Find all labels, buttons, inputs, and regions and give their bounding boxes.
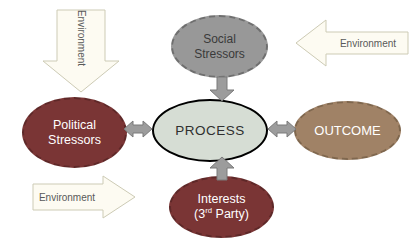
environment-label-top-left: Environment <box>76 10 87 66</box>
interests-label-line1: Interests <box>198 192 246 207</box>
environment-label-top-right: Environment <box>340 38 396 49</box>
node-political-stressors: Political Stressors <box>22 97 127 168</box>
political-stressors-label-line2: Stressors <box>48 133 101 148</box>
interests-label-open: (3 <box>194 208 205 222</box>
political-stressors-label-line1: Political <box>53 118 96 133</box>
connector-arrow-double-left-icon <box>124 121 152 137</box>
social-stressors-label-line2: Stressors <box>194 47 245 61</box>
process-label: PROCESS <box>175 123 245 139</box>
node-social-stressors: Social Stressors <box>171 15 268 78</box>
stressor-process-diagram: Environment Environment Environment Soci… <box>0 0 416 247</box>
environment-arrow-down-icon <box>43 10 119 92</box>
node-outcome: OUTCOME <box>294 101 401 160</box>
connector-arrow-double-right-icon <box>268 121 296 137</box>
node-process: PROCESS <box>152 99 268 162</box>
connector-arrow-down-icon <box>210 77 234 101</box>
social-stressors-label-line1: Social <box>203 32 236 46</box>
node-interests-third-party: Interests (3rd Party) <box>169 176 274 238</box>
environment-label-bottom-left: Environment <box>39 192 95 203</box>
environment-arrow-right-icon <box>33 176 135 218</box>
interests-label-rest: Party) <box>212 208 249 222</box>
outcome-label: OUTCOME <box>314 123 380 138</box>
environment-arrow-left-icon <box>296 20 408 66</box>
interests-label-line2: (3rd Party) <box>194 206 249 222</box>
